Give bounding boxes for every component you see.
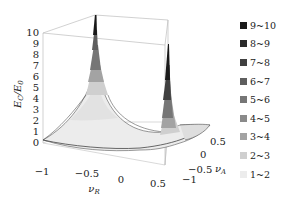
svg-text:9: 9 (33, 38, 39, 49)
legend-item: 3~4 (240, 128, 281, 147)
x-axis-label: νR (88, 183, 100, 196)
svg-text:0: 0 (200, 149, 206, 160)
svg-text:2: 2 (33, 115, 39, 126)
svg-text:−1: −1 (182, 174, 197, 185)
legend-item: 4~5 (240, 109, 281, 128)
svg-text:−0.5: −0.5 (188, 164, 212, 175)
svg-text:0.5: 0.5 (210, 136, 226, 147)
legend-label: 3~4 (250, 131, 270, 142)
legend-label: 9~10 (250, 20, 276, 31)
y-axis-label: νA (215, 163, 226, 176)
legend-item: 2~3 (240, 146, 281, 165)
legend-swatch (240, 40, 247, 47)
svg-text:4: 4 (33, 93, 39, 104)
legend-label: 4~5 (250, 113, 270, 124)
svg-text:5: 5 (33, 82, 39, 93)
svg-text:0: 0 (118, 174, 124, 185)
svg-text:7: 7 (33, 60, 39, 71)
legend-item: 1~2 (240, 165, 281, 184)
svg-text:6: 6 (33, 71, 39, 82)
legend-swatch (240, 171, 247, 178)
legend-item: 9~10 (240, 16, 281, 35)
legend-label: 1~2 (250, 169, 270, 180)
z-axis: 10 9 8 7 6 5 4 3 2 1 0 EC/E0 (12, 27, 39, 148)
legend-item: 7~8 (240, 53, 281, 72)
legend-swatch (240, 133, 247, 140)
legend-label: 2~3 (250, 150, 270, 161)
legend-label: 7~8 (250, 57, 270, 68)
svg-text:1: 1 (33, 126, 39, 137)
legend-swatch (240, 78, 247, 85)
y-axis: −1 −0.5 0 0.5 νA (182, 136, 226, 185)
z-axis-label: EC/E0 (12, 80, 25, 109)
svg-text:0: 0 (33, 137, 39, 148)
legend: 9~10 8~9 7~8 6~7 5~6 4~5 3~4 2~3 1~2 (240, 16, 281, 183)
legend-label: 8~9 (250, 38, 270, 49)
legend-swatch (240, 96, 247, 103)
svg-text:10: 10 (26, 27, 39, 38)
svg-text:−1: −1 (35, 166, 50, 177)
legend-swatch (240, 59, 247, 66)
surface-plot: 10 9 8 7 6 5 4 3 2 1 0 EC/E0 −1 −0.5 0 0… (0, 0, 281, 202)
svg-text:0.5: 0.5 (150, 178, 166, 189)
svg-text:−0.5: −0.5 (75, 168, 99, 179)
legend-item: 5~6 (240, 90, 281, 109)
svg-text:3: 3 (33, 104, 39, 115)
legend-item: 6~7 (240, 72, 281, 91)
legend-label: 6~7 (250, 76, 270, 87)
legend-swatch (240, 152, 247, 159)
svg-text:8: 8 (33, 49, 39, 60)
legend-swatch (240, 115, 247, 122)
legend-swatch (240, 22, 247, 29)
x-axis: −1 −0.5 0 0.5 νR (35, 166, 166, 196)
legend-item: 8~9 (240, 35, 281, 54)
legend-label: 5~6 (250, 94, 270, 105)
